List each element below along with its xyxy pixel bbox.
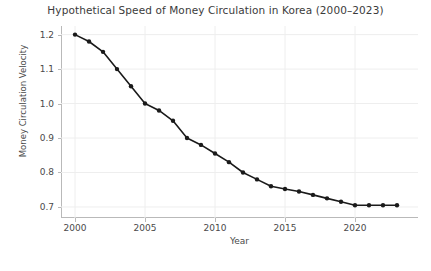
x-axis-tick-mark [215, 218, 216, 222]
data-point-marker [87, 39, 91, 43]
x-axis-tick-mark [285, 218, 286, 222]
data-point-marker [269, 184, 273, 188]
y-axis-tick-mark [58, 138, 62, 139]
x-axis-tick-label: 2010 [204, 223, 227, 233]
y-axis-tick-mark [58, 207, 62, 208]
data-point-marker [171, 119, 175, 123]
y-axis-tick-label: 1.2 [8, 30, 54, 40]
x-axis-tick-mark [145, 218, 146, 222]
y-axis-tick-label: 1.0 [8, 99, 54, 109]
y-axis-tick-label: 0.8 [8, 167, 54, 177]
series-line [75, 35, 397, 206]
data-point-marker [311, 193, 315, 197]
y-axis-tick-mark [58, 172, 62, 173]
y-axis-tick-mark [58, 104, 62, 105]
data-point-marker [283, 187, 287, 191]
data-point-marker [101, 50, 105, 54]
data-point-marker [381, 203, 385, 207]
data-point-marker [367, 203, 371, 207]
x-axis-tick-label: 2015 [274, 223, 297, 233]
y-axis-tick-label: 1.1 [8, 64, 54, 74]
data-point-marker [199, 143, 203, 147]
data-point-marker [255, 177, 259, 181]
data-point-marker [73, 32, 77, 36]
data-point-marker [143, 101, 147, 105]
y-axis-tick-mark [58, 69, 62, 70]
y-axis-tick-label: 0.9 [8, 133, 54, 143]
y-axis-tick-label: 0.7 [8, 202, 54, 212]
x-axis-label: Year [61, 236, 418, 246]
data-point-marker [157, 108, 161, 112]
data-point-marker [339, 200, 343, 204]
data-point-marker [213, 151, 217, 155]
data-point-marker [129, 84, 133, 88]
data-point-marker [227, 160, 231, 164]
plot-area [61, 26, 418, 218]
data-point-marker [353, 203, 357, 207]
chart-figure: Hypothetical Speed of Money Circulation … [0, 0, 431, 271]
data-point-marker [241, 170, 245, 174]
x-axis-tick-label: 2005 [134, 223, 157, 233]
chart-title: Hypothetical Speed of Money Circulation … [0, 4, 431, 16]
data-point-marker [185, 136, 189, 140]
data-point-marker [297, 189, 301, 193]
data-series-money-circulation-velocity [61, 26, 418, 218]
x-axis-tick-label: 2020 [344, 223, 367, 233]
data-point-marker [325, 196, 329, 200]
data-point-marker [395, 203, 399, 207]
y-axis-tick-mark [58, 35, 62, 36]
x-axis-tick-mark [355, 218, 356, 222]
x-axis-tick-label: 2000 [64, 223, 87, 233]
x-axis-tick-mark [75, 218, 76, 222]
data-point-marker [115, 67, 119, 71]
